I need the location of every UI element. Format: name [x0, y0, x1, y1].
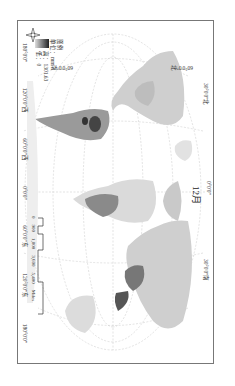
legend-title: 图例	[56, 39, 63, 81]
lat-label-60n: 60°0'0"北	[171, 64, 193, 70]
legend-unit: 单位：mm	[49, 39, 56, 81]
legend: 图例 单位：mm 高：1301.63 低：0	[35, 39, 63, 81]
scale-tick: 0	[31, 216, 36, 219]
compass-icon	[25, 27, 41, 43]
lon-label: 180°0'0"	[22, 324, 28, 343]
scale-tick: 5,400	[31, 273, 36, 284]
scale-tick: 900	[31, 225, 36, 233]
longitude-labels: 180°0'0" 120°0'0"西 60°0'0"西 0°0'0" 60°0'…	[22, 43, 28, 343]
lat-label-30n: 30°0'0"北	[203, 83, 209, 105]
legend-high: 高：1301.63	[42, 51, 49, 81]
scale-unit: Miles	[31, 290, 36, 301]
legend-low: 低：0	[36, 51, 43, 81]
scale-bar-graphic	[37, 216, 45, 326]
lat-label-0: 0°0'0"	[206, 181, 212, 195]
scale-tick: 1,800	[31, 238, 36, 249]
rotated-map-page: 30°0'0"北 0°0'0" 30°0'0"南 60°0'0"北 60°0'0…	[17, 20, 214, 364]
lon-label: 180°0'0"	[22, 43, 28, 62]
month-label: 12月	[190, 186, 203, 204]
lon-label: 0°0'0"	[22, 186, 28, 200]
map-frame: 30°0'0"北 0°0'0" 30°0'0"南 60°0'0"北 60°0'0…	[17, 20, 214, 364]
lon-label: 120°0'0"东	[22, 273, 28, 298]
lon-label: 120°0'0"西	[22, 88, 28, 113]
north-arrow	[24, 27, 41, 43]
lat-label-30s: 30°0'0"南	[203, 259, 209, 281]
lon-label: 60°0'0"西	[22, 138, 28, 160]
scale-tick: 3,600	[31, 255, 36, 266]
lon-label: 60°0'0"东	[22, 225, 28, 247]
scale-bar: 0 900 1,800 3,600 5,400 Miles	[31, 216, 45, 326]
